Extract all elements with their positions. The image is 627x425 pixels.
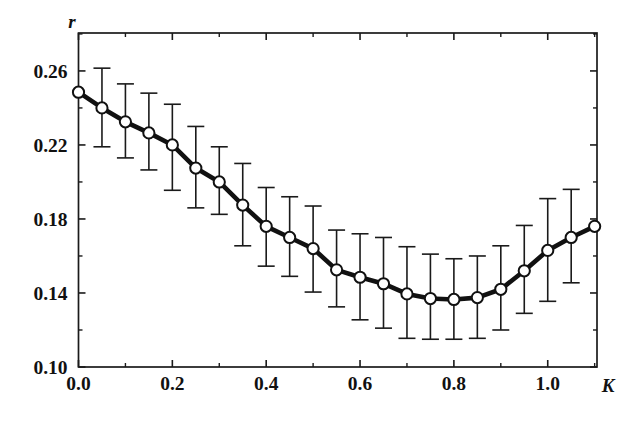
x-tick-label: 0.8	[442, 373, 467, 394]
data-point-marker	[401, 288, 412, 299]
data-point-marker	[237, 199, 248, 210]
data-point-marker	[214, 176, 225, 187]
data-point-marker	[73, 87, 84, 98]
x-tick-label: 0.4	[254, 373, 279, 394]
x-axis-label: K	[601, 375, 616, 396]
x-tick-label: 0.2	[160, 373, 184, 394]
y-tick-label: 0.26	[33, 61, 67, 82]
data-point-marker	[566, 232, 577, 243]
data-point-marker	[96, 102, 107, 113]
chart-figure: 0.00.20.40.60.81.0 0.100.140.180.220.26 …	[0, 0, 627, 425]
error-bar-line-chart: 0.00.20.40.60.81.0 0.100.140.180.220.26 …	[0, 0, 627, 425]
data-point-marker	[167, 139, 178, 150]
y-axis-label: r	[68, 11, 76, 32]
data-point-marker	[308, 243, 319, 254]
data-point-marker	[331, 264, 342, 275]
data-point-marker	[378, 278, 389, 289]
data-point-marker	[425, 293, 436, 304]
y-tick-label: 0.14	[33, 283, 67, 304]
data-point-marker	[354, 272, 365, 283]
data-point-marker	[120, 116, 131, 127]
y-tick-label: 0.22	[33, 135, 67, 156]
y-tick-label: 0.10	[33, 357, 67, 378]
data-point-marker	[190, 162, 201, 173]
x-tick-label: 0.6	[348, 373, 373, 394]
x-tick-label: 0.0	[66, 373, 90, 394]
data-point-marker	[542, 245, 553, 256]
y-tick-label: 0.18	[33, 209, 67, 230]
data-point-marker	[519, 265, 530, 276]
data-point-marker	[448, 294, 459, 305]
data-point-marker	[143, 127, 154, 138]
x-tick-label: 1.0	[536, 373, 560, 394]
data-point-marker	[589, 221, 600, 232]
data-point-marker	[495, 284, 506, 295]
data-point-marker	[284, 232, 295, 243]
data-point-marker	[472, 292, 483, 303]
data-point-marker	[261, 221, 272, 232]
